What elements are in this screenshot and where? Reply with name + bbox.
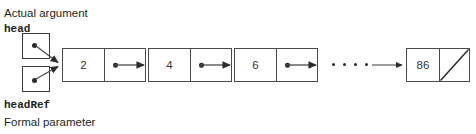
ellipsis-continuation (332, 63, 368, 66)
list-node-3: 6 (234, 48, 318, 82)
head-ref-label: headRef (4, 100, 50, 111)
formal-parameter-label: Formal parameter (4, 117, 95, 129)
node-pointer-cell-3 (277, 49, 317, 81)
node-value-3: 6 (235, 49, 277, 81)
node-pointer-dot-3 (285, 63, 290, 68)
ellipsis-dot (343, 63, 346, 66)
pointer-dot-head-ref (32, 78, 37, 83)
pointer-box-head-ref (22, 66, 50, 92)
node-pointer-dot-2 (199, 63, 204, 68)
node-pointer-cell-1 (105, 49, 145, 81)
pointer-dot-head (32, 43, 37, 48)
list-node-1: 2 (62, 48, 146, 82)
node-pointer-cell-2 (191, 49, 231, 81)
actual-argument-label: Actual argument (4, 8, 88, 20)
node-pointer-dot-1 (113, 63, 118, 68)
node-value-1: 2 (63, 49, 105, 81)
node-value-2: 4 (149, 49, 191, 81)
list-node-4: 86 (406, 48, 470, 82)
node-value-4: 86 (407, 49, 440, 81)
ellipsis-dot (332, 63, 335, 66)
ellipsis-dot (365, 63, 368, 66)
node-null-pointer-cell-4 (440, 49, 469, 81)
linked-list-diagram: Actual argument head headRef Formal para… (0, 0, 476, 134)
pointer-box-head (22, 33, 50, 59)
ellipsis-dot (354, 63, 357, 66)
list-node-2: 4 (148, 48, 232, 82)
